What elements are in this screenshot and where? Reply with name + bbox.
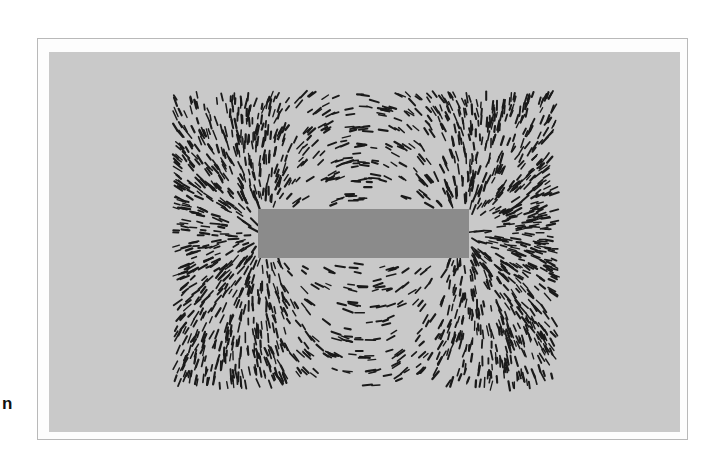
bar-magnet — [258, 209, 469, 258]
